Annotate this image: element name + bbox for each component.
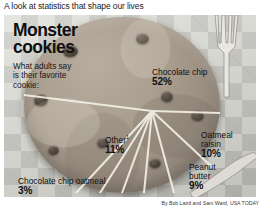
pie-label-molasses: Molasses 4% (87, 191, 141, 197)
header-tagline: A look at statistics that shape our live… (4, 1, 256, 14)
chocolate-chip-icon (34, 94, 48, 106)
chocolate-chip-icon (149, 158, 161, 168)
pie-label-other: Other1 11% (105, 135, 129, 156)
page-subtitle: What adults say is their favorite cookie… (13, 62, 99, 91)
chocolate-chip-icon (191, 110, 204, 121)
fork-icon (208, 15, 254, 99)
chocolate-chip-icon (48, 145, 59, 155)
chocolate-chip-icon (136, 33, 149, 44)
pie-label-peanut-butter: Peanut butter 9% (189, 163, 216, 192)
footnote-marker: 1 (126, 134, 129, 140)
pie-label-oatmeal-raisin: Oatmeal raisin 10% (201, 131, 233, 160)
title-block: Monster cookies What adults say is their… (13, 22, 99, 91)
infographic-panel: Chocolate chip 52% Oatmeal raisin 10% Pe… (4, 15, 256, 197)
source-credit: By Bob Laird and Sam Ward, USA TODAY (161, 200, 259, 206)
infographic-page: A look at statistics that shape our live… (0, 0, 260, 213)
chocolate-chip-icon (161, 91, 173, 102)
pie-label-chocolate-chip: Chocolate chip 52% (152, 68, 207, 88)
page-title: Monster cookies (13, 22, 99, 57)
